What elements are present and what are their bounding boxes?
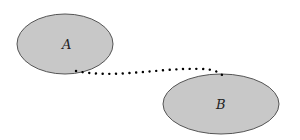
node-a-label: A — [61, 37, 71, 52]
diagram-canvas: A B — [0, 0, 300, 140]
node-b-label: B — [215, 97, 226, 112]
